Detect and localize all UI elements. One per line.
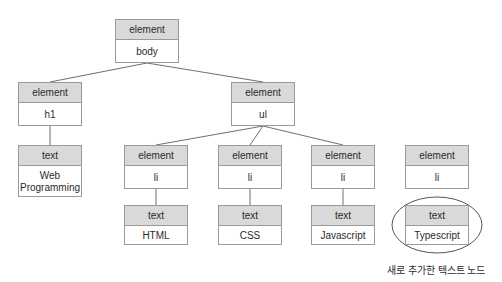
node-type-label: element — [219, 146, 281, 166]
node-type-label: element — [125, 146, 187, 166]
node-text-css: textCSS — [218, 205, 282, 245]
node-type-label: element — [312, 146, 374, 166]
node-value-label: Web Programming — [19, 166, 81, 198]
node-h1text: textWeb Programming — [18, 145, 82, 197]
node-type-label: element — [19, 83, 81, 103]
node-value-label: li — [219, 166, 281, 190]
edge-ul-to-li1 — [156, 126, 263, 145]
node-type-label: text — [219, 206, 281, 226]
node-value-label: ul — [232, 103, 294, 127]
node-type-label: text — [312, 206, 374, 226]
dom-tree-diagram: elementbodyelementh1elementultextWeb Pro… — [0, 0, 502, 282]
edge-ul-to-li3 — [263, 126, 343, 145]
node-value-label: li — [312, 166, 374, 190]
node-text-html: textHTML — [124, 205, 188, 245]
node-value-label: HTML — [125, 226, 187, 246]
edge-ul-to-li2 — [250, 126, 263, 145]
node-type-label: text — [406, 206, 468, 226]
node-type-label: text — [125, 206, 187, 226]
node-ul: elementul — [231, 82, 295, 126]
node-value-label: CSS — [219, 226, 281, 246]
node-text-ts: textTypescript — [405, 205, 469, 245]
node-type-label: element — [232, 83, 294, 103]
node-text-js: textJavascript — [311, 205, 375, 245]
edge-body-to-ul — [147, 63, 263, 82]
node-value-label: body — [116, 40, 178, 64]
node-value-label: li — [406, 166, 468, 190]
node-body: elementbody — [115, 19, 179, 63]
node-li2: elementli — [218, 145, 282, 189]
node-h1: elementh1 — [18, 82, 82, 126]
node-type-label: text — [19, 146, 81, 166]
annotation-new-text-node: 새로 추가한 텍스트 노드 — [387, 262, 485, 277]
node-value-label: h1 — [19, 103, 81, 127]
node-value-label: Typescript — [406, 226, 468, 246]
node-value-label: Javascript — [312, 226, 374, 246]
node-li3: elementli — [311, 145, 375, 189]
edge-body-to-h1 — [50, 63, 147, 82]
node-value-label: li — [125, 166, 187, 190]
node-type-label: element — [116, 20, 178, 40]
node-li1: elementli — [124, 145, 188, 189]
node-li4: elementli — [405, 145, 469, 189]
node-type-label: element — [406, 146, 468, 166]
